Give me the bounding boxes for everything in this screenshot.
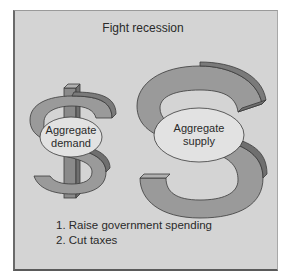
policy-actions-list: 1. Raise government spending 2. Cut taxe… [56,218,212,248]
label-line: Aggregate [40,124,102,137]
aggregate-supply-label: Aggregate supply [154,122,244,148]
list-item: 2. Cut taxes [56,233,212,248]
list-item: 1. Raise government spending [56,218,212,233]
label-line: Aggregate [154,122,244,135]
aggregate-demand-label: Aggregate demand [40,124,102,150]
label-line: supply [154,135,244,148]
label-line: demand [40,137,102,150]
